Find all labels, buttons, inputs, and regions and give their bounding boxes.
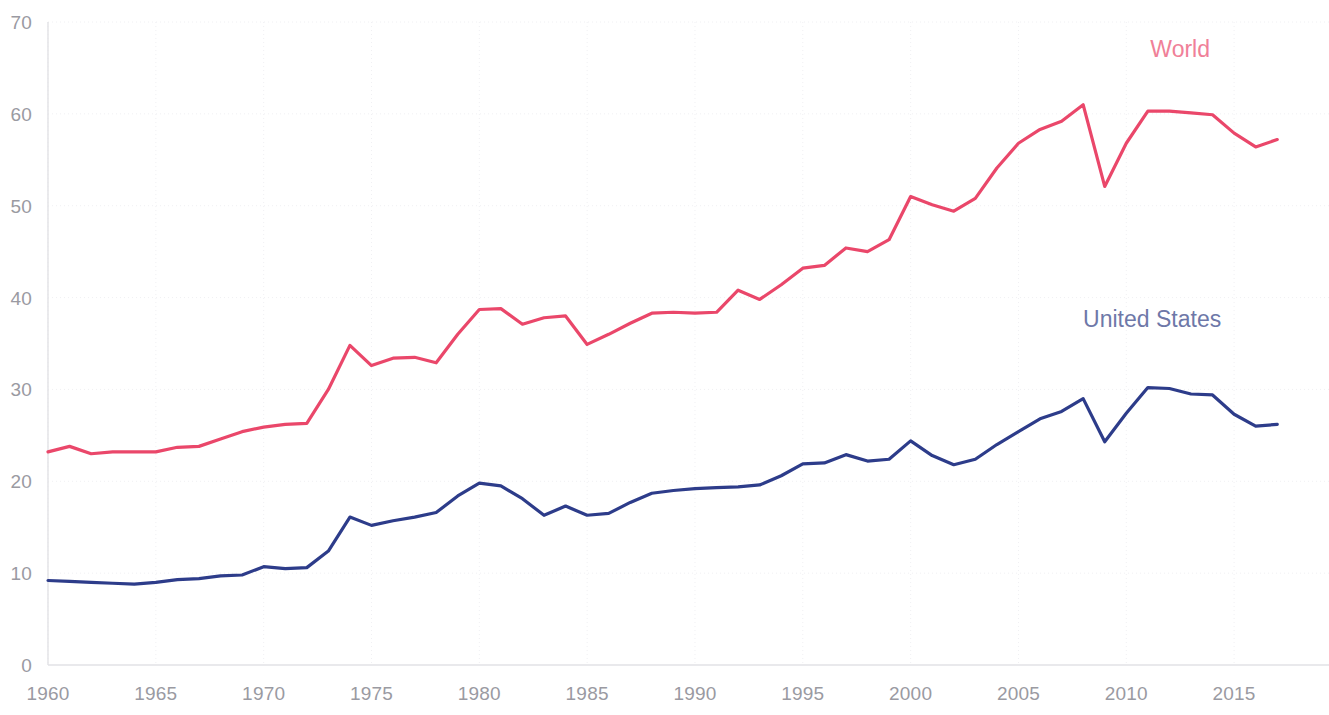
gridlines [48, 22, 1329, 665]
x-tick-label-1975: 1975 [350, 683, 393, 704]
x-axis-tick-labels: 1960196519701975198019851990199520002005… [26, 683, 1255, 704]
x-tick-label-2000: 2000 [889, 683, 932, 704]
x-tick-label-1970: 1970 [242, 683, 285, 704]
x-tick-label-2010: 2010 [1105, 683, 1148, 704]
y-tick-label-20: 20 [10, 471, 32, 492]
axis-lines [48, 22, 1329, 665]
chart-canvas: 706050403020100 196019651970197519801985… [0, 0, 1329, 715]
series-line-world [48, 105, 1277, 454]
x-tick-label-1965: 1965 [134, 683, 177, 704]
y-tick-label-30: 30 [10, 379, 32, 400]
y-tick-label-50: 50 [10, 196, 32, 217]
y-tick-label-60: 60 [10, 104, 32, 125]
y-tick-label-0: 0 [21, 655, 32, 676]
y-tick-label-70: 70 [10, 12, 32, 33]
x-tick-label-1960: 1960 [26, 683, 69, 704]
x-tick-label-2015: 2015 [1213, 683, 1256, 704]
series-label-united-states: United States [1083, 306, 1221, 332]
x-tick-label-2005: 2005 [997, 683, 1040, 704]
line-chart: 706050403020100 196019651970197519801985… [0, 0, 1329, 715]
x-tick-label-1985: 1985 [566, 683, 609, 704]
data-series [48, 105, 1277, 585]
series-label-world: World [1150, 36, 1210, 62]
x-tick-label-1995: 1995 [781, 683, 824, 704]
y-axis-tick-labels: 706050403020100 [10, 12, 32, 676]
x-tick-label-1980: 1980 [458, 683, 501, 704]
series-line-united-states [48, 388, 1277, 585]
x-tick-label-1990: 1990 [673, 683, 716, 704]
y-tick-label-40: 40 [10, 288, 32, 309]
y-tick-label-10: 10 [10, 563, 32, 584]
